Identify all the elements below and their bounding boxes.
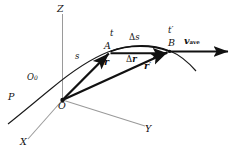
x-axis-label: X: [20, 137, 27, 147]
z-axis-label: Z: [57, 4, 64, 14]
v-ave-label: vave: [184, 36, 200, 46]
arc-length-letter: s: [135, 32, 139, 42]
path-label-p: P: [8, 92, 14, 102]
arc-length-delta-s: [111, 46, 169, 51]
delta-r-label: Δr: [126, 55, 137, 64]
arc-s-label: s: [75, 52, 79, 61]
trajectory-curve-left: [8, 46, 170, 124]
vector-r-prime-mark: ′: [149, 60, 151, 71]
path-origin-subscript: 0: [34, 74, 38, 81]
vector-r-label: r: [104, 57, 109, 67]
vector-r-prime-label: r′: [144, 61, 151, 71]
time-label-t-prime: t′: [168, 26, 173, 35]
position-vector-r: [63, 54, 109, 101]
path-origin-letter: O: [27, 72, 34, 82]
point-b-label: B: [168, 38, 175, 48]
time-b-prime-mark: ′: [171, 25, 173, 35]
vector-diagram-figure: Z Y X O O0 P A t B t′ s Δs Δr r r′ vave: [0, 0, 233, 154]
point-b-dot: [168, 50, 171, 53]
arc-delta-s-label: Δs: [129, 33, 140, 42]
y-axis-label: Y: [145, 124, 151, 134]
v-ave-subscript: ave: [190, 39, 200, 45]
point-a-label: A: [104, 41, 111, 51]
path-origin-label: O0: [27, 73, 38, 82]
time-label-t: t: [110, 29, 113, 38]
origin-label: O: [58, 101, 66, 111]
delta-r-letter: r: [132, 54, 136, 64]
y-axis-line: [63, 100, 146, 126]
trajectory-curve-tail: [170, 51, 196, 71]
